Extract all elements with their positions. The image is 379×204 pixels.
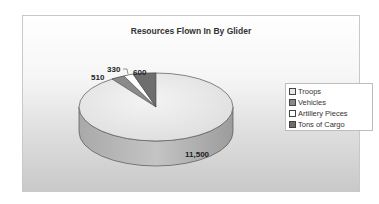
label-troops: 11,500 [185, 150, 210, 159]
legend-label: Troops [298, 87, 321, 96]
label-artillery: 330 [107, 65, 121, 74]
legend-label: Artillery Pieces [298, 109, 348, 118]
legend-item-artillery[interactable]: Artillery Pieces [289, 108, 369, 119]
legend-item-vehicles[interactable]: Vehicles [289, 97, 369, 108]
legend: Troops Vehicles Artillery Pieces Tons of… [285, 83, 373, 131]
legend-label: Vehicles [298, 98, 326, 107]
legend-swatch-icon [289, 88, 296, 95]
chart-area: Resources Flown In By Glider 5 [22, 15, 360, 192]
label-cargo: 600 [133, 68, 147, 77]
legend-swatch-icon [289, 121, 296, 128]
legend-item-cargo[interactable]: Tons of Cargo [289, 119, 369, 130]
legend-item-troops[interactable]: Troops [289, 86, 369, 97]
label-vehicles: 510 [91, 73, 105, 82]
leader-line [123, 69, 128, 74]
legend-swatch-icon [289, 110, 296, 117]
legend-swatch-icon [289, 99, 296, 106]
legend-label: Tons of Cargo [298, 120, 345, 129]
